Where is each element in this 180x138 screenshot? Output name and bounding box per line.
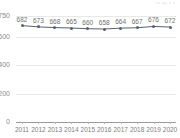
gridline [16,37,176,38]
x-axis-tick [71,122,72,124]
data-point-label: 664 [115,18,126,25]
x-axis-tick-label: 2019 [146,126,160,134]
data-point-marker [21,24,24,27]
data-point-label: 672 [165,17,176,24]
x-axis-tick [22,122,23,124]
series-line [16,16,176,122]
y-axis-tick-label: 600 [0,33,10,40]
data-point-label: 673 [33,17,44,24]
x-axis-tick [154,122,155,124]
data-point-marker [136,26,139,29]
y-axis-tick-label: 200 [0,90,10,97]
data-point-marker [70,27,73,30]
x-axis-tick [55,122,56,124]
gridline [16,122,176,123]
data-point-marker [169,26,172,29]
x-axis-tick-label: 2018 [130,126,144,134]
data-point-marker [119,27,122,30]
y-axis-tick-label: 0 [0,118,10,125]
data-point-label: 668 [49,18,60,25]
x-axis-tick-label: 2015 [81,126,95,134]
plot-area: 7506004002000201120122013201420152016201… [16,16,176,122]
data-point-marker [152,25,155,28]
x-axis-tick-label: 2011 [15,126,29,134]
x-axis-tick-label: 2017 [113,126,127,134]
line-chart: xz.yy z z. 75060040020002011201220132014… [0,0,180,138]
data-point-label: 665 [66,18,77,25]
x-axis-tick [137,122,138,124]
data-point-label: 667 [132,18,143,25]
data-point-label: 682 [17,16,28,23]
x-axis-tick [121,122,122,124]
y-axis-tick-label: 400 [0,61,10,68]
data-point-label: 676 [148,16,159,23]
x-axis-tick [170,122,171,124]
y-axis-tick-label: 750 [0,12,10,19]
data-point-label: 658 [99,19,110,26]
data-point-marker [103,28,106,31]
x-axis-tick [104,122,105,124]
gridline [16,65,176,66]
x-axis-tick-label: 2014 [64,126,78,134]
x-axis-tick-label: 2020 [163,126,177,134]
data-point-label: 660 [82,19,93,26]
x-axis-tick-label: 2013 [48,126,62,134]
x-axis-tick [88,122,89,124]
x-axis-tick-label: 2016 [97,126,111,134]
watermark-text: xz.yy z z. [156,0,177,5]
x-axis-tick [38,122,39,124]
gridline [16,94,176,95]
x-axis-tick-label: 2012 [31,126,45,134]
